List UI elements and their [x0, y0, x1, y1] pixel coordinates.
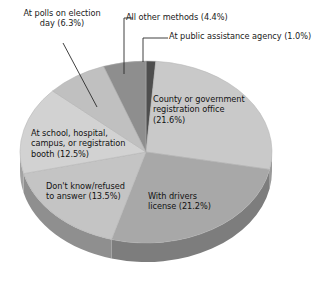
slice-label-school-hospital-campus: At school, hospital, campus, or registra… — [31, 128, 139, 159]
slice-label-dont-know-refused: Don't know/refused to answer (13.5%) — [46, 181, 146, 202]
leader-line-public-assistance — [143, 38, 168, 62]
slice-label-all-other-methods: All other methods (4.4%) — [126, 12, 266, 22]
slice-label-public-assistance: At public assistance agency (1.0%) — [169, 31, 323, 41]
pie-chart-figure: At polls on election day (6.3%) All othe… — [0, 0, 325, 286]
slice-label-county-registration-office: County or government registration office… — [153, 94, 259, 125]
slice-label-polls-election-day: At polls on election day (6.3%) — [6, 8, 118, 29]
slice-label-drivers-license: With drivers license (21.2%) — [148, 191, 238, 212]
